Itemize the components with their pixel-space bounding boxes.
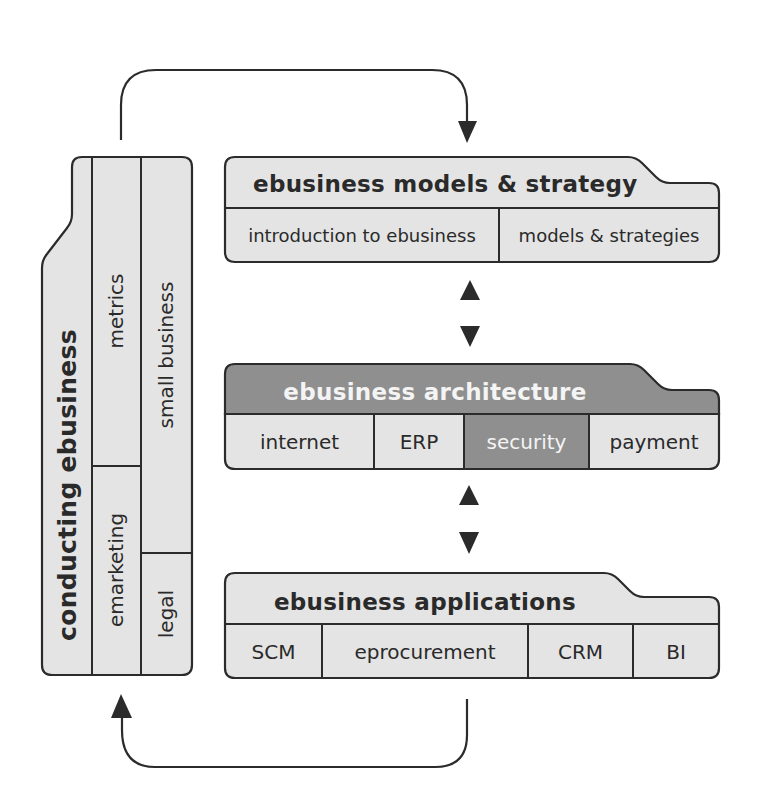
strategy-cell-introduction: introduction to ebusiness (226, 209, 498, 262)
applications-layer-title: ebusiness applications (235, 583, 615, 621)
side-cell-metrics: metrics (96, 157, 136, 465)
side-panel-title: conducting ebusiness (47, 300, 87, 670)
arrow-up-icon (460, 280, 480, 300)
applications-cell-crm: CRM (529, 625, 632, 678)
side-cell-small-business: small business (146, 157, 186, 553)
architecture-applications-arrows (459, 485, 479, 554)
architecture-cell-security: security (465, 415, 588, 469)
architecture-layer-title: ebusiness architecture (235, 373, 635, 411)
arrowhead-up-icon (111, 694, 132, 718)
architecture-cell-internet: internet (226, 415, 373, 469)
arrow-down-icon (460, 326, 480, 347)
side-cell-legal: legal (146, 553, 186, 675)
architecture-cell-erp: ERP (375, 415, 463, 469)
top-cycle-arrow (121, 70, 477, 143)
bottom-cycle-arrow (111, 694, 467, 767)
strategy-architecture-arrows (460, 280, 480, 347)
architecture-cell-payment: payment (590, 415, 718, 469)
arrowhead-down-icon (458, 121, 477, 143)
strategy-cell-models: models & strategies (500, 209, 718, 262)
strategy-layer-title: ebusiness models & strategy (235, 166, 653, 202)
arrow-up-icon (459, 485, 479, 505)
applications-cell-bi: BI (634, 625, 718, 678)
arrow-down-icon (459, 532, 479, 554)
applications-cell-scm: SCM (226, 625, 321, 678)
side-cell-emarketing: emarketing (96, 466, 136, 674)
applications-cell-eprocurement: eprocurement (323, 625, 527, 678)
